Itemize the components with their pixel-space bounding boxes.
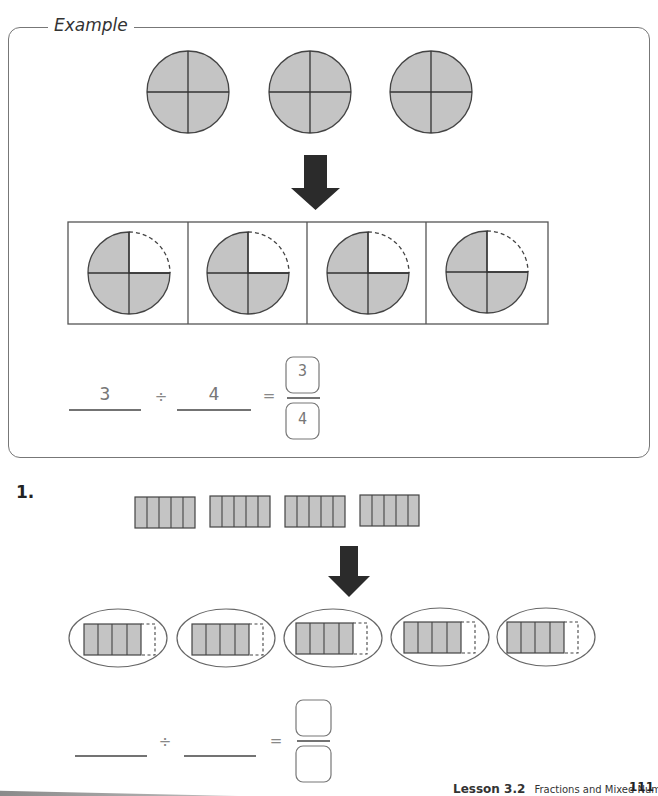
group-oval-1 bbox=[69, 609, 167, 667]
whole-circles bbox=[147, 51, 472, 133]
group-oval-3 bbox=[284, 609, 382, 667]
problem-number: 1. bbox=[16, 482, 34, 502]
whole-bar-1 bbox=[135, 497, 195, 528]
group-circle-1 bbox=[88, 232, 170, 314]
group-circle-2 bbox=[207, 232, 289, 314]
footer-lesson: Lesson 3.2 Fractions and Mixed Numbers a… bbox=[453, 782, 658, 796]
whole-bar-2 bbox=[210, 496, 270, 527]
svg-text:=: = bbox=[270, 732, 283, 750]
divisor-answer-blank[interactable] bbox=[184, 732, 256, 754]
group-boxes bbox=[68, 222, 548, 324]
group-oval-2 bbox=[177, 609, 275, 667]
down-arrow-icon bbox=[328, 546, 370, 597]
example-denominator: 4 bbox=[286, 410, 319, 428]
whole-bars bbox=[135, 495, 419, 528]
whole-circle-1 bbox=[147, 51, 229, 133]
group-oval-4 bbox=[391, 608, 489, 666]
whole-bar-3 bbox=[285, 496, 345, 527]
page-number: 111 bbox=[629, 780, 654, 794]
group-oval-5 bbox=[497, 608, 595, 666]
lesson-number: Lesson 3.2 bbox=[453, 782, 525, 796]
svg-text:÷: ÷ bbox=[159, 733, 172, 751]
whole-circle-3 bbox=[390, 51, 472, 133]
down-arrow-icon bbox=[291, 155, 340, 210]
numerator-answer-box[interactable] bbox=[296, 700, 331, 736]
svg-text:=: = bbox=[263, 387, 276, 405]
denominator-answer-box[interactable] bbox=[296, 746, 331, 782]
whole-circle-2 bbox=[269, 51, 351, 133]
whole-bar-4 bbox=[360, 495, 419, 526]
svg-text:÷: ÷ bbox=[155, 388, 168, 406]
example-dividend: 3 bbox=[69, 383, 141, 404]
group-circle-3 bbox=[327, 232, 409, 314]
dividend-answer-blank[interactable] bbox=[75, 732, 147, 754]
example-divisor: 4 bbox=[177, 383, 251, 404]
example-numerator: 3 bbox=[286, 362, 319, 380]
group-circle-4 bbox=[446, 231, 528, 313]
group-ovals bbox=[69, 608, 595, 667]
